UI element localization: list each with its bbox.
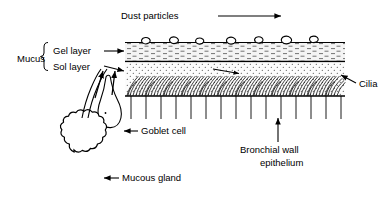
secretion-arrow-duct	[95, 71, 103, 98]
dust-particles-label: Dust particles	[121, 10, 179, 21]
mucociliary-diagram: Dust particles Mucus Gel layer Sol layer…	[0, 0, 387, 207]
sol-layer-arrow	[104, 66, 124, 71]
gel-layer-label: Gel layer	[53, 45, 91, 56]
goblet-cell-label: Goblet cell	[141, 125, 186, 136]
bronchial-wall-label-line2: epithelium	[260, 157, 303, 168]
bronchial-wall-label-line1: Bronchial wall	[240, 144, 299, 155]
epithelial-cell-dividers	[131, 96, 341, 119]
mucous-gland-shape	[60, 110, 106, 152]
mucus-label: Mucus	[17, 53, 45, 64]
sol-layer-label: Sol layer	[53, 61, 90, 72]
diagram-canvas	[0, 0, 387, 207]
cilia-label: Cilia	[359, 78, 377, 89]
gel-layer-band	[125, 43, 345, 62]
mucous-gland-label: Mucous gland	[122, 172, 181, 183]
